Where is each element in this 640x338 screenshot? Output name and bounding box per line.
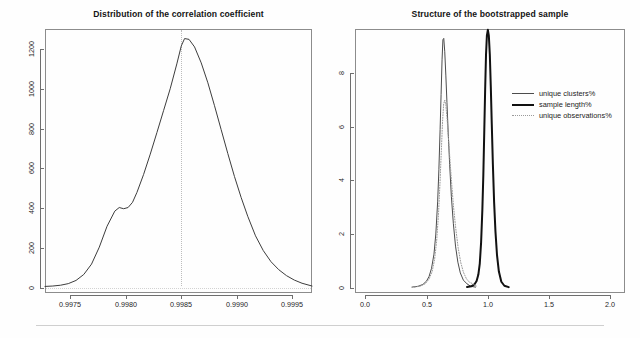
- legend-item-sample-length: sample length%: [512, 99, 612, 110]
- legend-item-unique-clusters: unique clusters%: [512, 88, 612, 99]
- dotted-line-key: [512, 110, 534, 121]
- right-plot-legend: unique clusters% sample length% unique o…: [512, 88, 612, 121]
- curve-sample-length: [467, 30, 509, 287]
- legend-label-sample-length: sample length%: [539, 100, 592, 109]
- right-density-curve-layer: [0, 0, 640, 338]
- figure-canvas: Distribution of the correlation coeffici…: [0, 0, 640, 338]
- thick-line-key: [512, 99, 534, 110]
- curve-unique-clusters: [412, 38, 476, 287]
- legend-item-unique-observations: unique observations%: [512, 110, 612, 121]
- curve-unique-observations: [414, 100, 476, 287]
- legend-label-unique-clusters: unique clusters%: [539, 89, 595, 98]
- footer-divider: [36, 325, 604, 326]
- thin-line-key: [512, 88, 534, 99]
- legend-label-unique-observations: unique observations%: [539, 111, 612, 120]
